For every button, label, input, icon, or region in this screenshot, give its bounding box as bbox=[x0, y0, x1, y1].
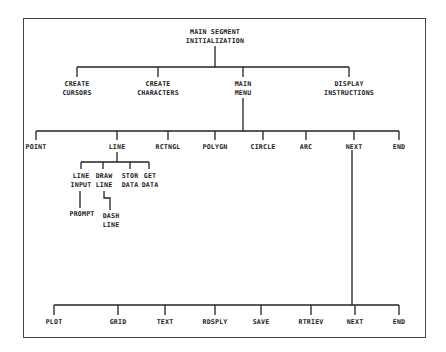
node-save: SAVE bbox=[253, 318, 270, 327]
node-line: LINE bbox=[109, 143, 126, 152]
connector-lines bbox=[0, 0, 446, 352]
node-point: POINT bbox=[26, 143, 47, 152]
node-create-cursors: CREATE CURSORS bbox=[62, 80, 91, 98]
node-prompt: PROMPT bbox=[69, 210, 94, 219]
node-display-instructions: DISPLAY INSTRUCTIONS bbox=[324, 80, 374, 98]
node-get-data: GET DATA bbox=[142, 172, 159, 190]
node-end: END bbox=[393, 143, 406, 152]
node-end-2: END bbox=[393, 318, 406, 327]
node-draw-line: DRAW LINE bbox=[96, 172, 113, 190]
node-create-characters: CREATE CHARACTERS bbox=[137, 80, 179, 98]
node-next: NEXT bbox=[346, 143, 363, 152]
node-next-2: NEXT bbox=[347, 318, 364, 327]
node-line-input: LINE INPUT bbox=[71, 172, 92, 190]
node-plot: PLOT bbox=[46, 318, 63, 327]
node-stor-data: STOR DATA bbox=[122, 172, 139, 190]
node-main-segment-initialization: MAIN SEGMENT INITIALIZATION bbox=[186, 28, 244, 46]
node-grid: GRID bbox=[110, 318, 127, 327]
node-dash-line: DASH LINE bbox=[103, 212, 120, 230]
node-text: TEXT bbox=[157, 318, 174, 327]
node-rtriev: RTRIEV bbox=[298, 318, 323, 327]
node-rctngl: RCTNGL bbox=[155, 143, 180, 152]
node-circle: CIRCLE bbox=[250, 143, 275, 152]
node-arc: ARC bbox=[300, 143, 313, 152]
node-polygn: POLYGN bbox=[202, 143, 227, 152]
node-rdsply: RDSPLY bbox=[202, 318, 227, 327]
node-main-menu: MAIN MENU bbox=[235, 80, 252, 98]
